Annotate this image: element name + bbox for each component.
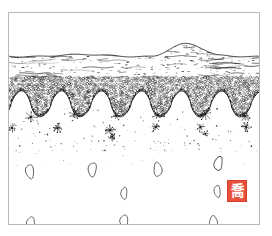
histology-drawing bbox=[9, 13, 259, 224]
seal-glyph: 喬 bbox=[230, 184, 244, 199]
artist-seal: 喬 bbox=[227, 180, 247, 202]
illustration-frame: 喬 Skin cross-section histology illustrat… bbox=[8, 12, 260, 225]
figure-root: 喬 Skin cross-section histology illustrat… bbox=[0, 0, 272, 236]
paper-background bbox=[9, 13, 259, 224]
